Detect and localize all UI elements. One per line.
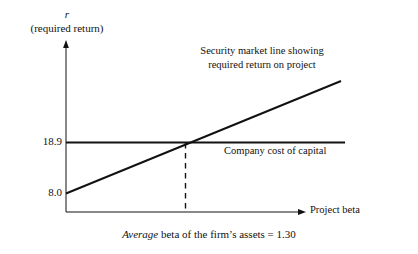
- y-axis-symbol: r: [6, 8, 128, 21]
- security-market-line: [66, 81, 341, 194]
- y-tick-label-high: 18.9: [24, 135, 62, 148]
- x-axis-title: Project beta: [310, 204, 360, 216]
- sml-annotation-line2: required return on project: [208, 59, 316, 70]
- y-axis-title-text: (required return): [6, 22, 128, 35]
- average-beta-caption-rest: beta of the firm’s assets = 1.30: [158, 228, 296, 240]
- y-axis-title: r (required return): [6, 8, 128, 35]
- y-axis: [63, 40, 69, 212]
- average-beta-caption-emphasis: Average: [122, 228, 158, 240]
- y-tick-label-low: 8.0: [24, 186, 62, 199]
- x-axis: [66, 209, 306, 215]
- security-market-line-annotation: Security market line showing required re…: [182, 44, 342, 72]
- average-beta-caption: Average beta of the firm’s assets = 1.30: [0, 228, 418, 241]
- security-market-line-figure: r (required return) 18.9 8.0 Security ma…: [0, 0, 418, 254]
- sml-annotation-line1: Security market line showing: [200, 45, 323, 56]
- company-cost-of-capital-annotation: Company cost of capital: [224, 145, 326, 157]
